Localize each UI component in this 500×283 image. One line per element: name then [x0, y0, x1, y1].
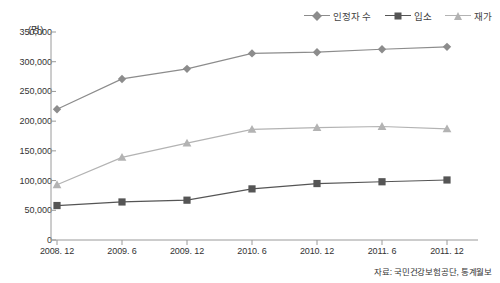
data-point-diamond: [378, 45, 386, 53]
data-point-triangle: [53, 180, 62, 188]
series-2: [53, 122, 452, 188]
plot-svg: [0, 0, 500, 283]
chart-container: 인정자 수 입소 재가 (명) 050,000100,000150,000200…: [0, 0, 500, 283]
series-1: [53, 176, 450, 209]
data-point-square: [248, 185, 255, 192]
x-tick-label: 2010. 6: [237, 246, 266, 256]
data-point-square: [313, 180, 320, 187]
data-point-diamond: [313, 48, 321, 56]
data-point-square: [118, 198, 125, 205]
x-tick-label: 2010. 12: [300, 246, 334, 256]
data-point-square: [183, 197, 190, 204]
plot-area: [0, 0, 500, 283]
data-point-square: [378, 178, 385, 185]
data-point-diamond: [248, 49, 256, 57]
x-tick-label: 2011. 12: [430, 246, 464, 256]
series-0: [53, 43, 451, 114]
data-point-diamond: [53, 105, 61, 113]
x-tick-label: 2009. 12: [170, 246, 204, 256]
source-note: 자료: 국민건강보험공단, 통계월보: [374, 265, 492, 277]
data-point-diamond: [118, 75, 126, 83]
x-tick-label: 2011. 6: [368, 246, 397, 256]
x-tick-label: 2008. 12: [40, 246, 74, 256]
data-point-square: [443, 176, 450, 183]
series-line: [57, 126, 447, 184]
data-point-diamond: [443, 43, 451, 51]
data-point-diamond: [183, 65, 191, 73]
data-point-square: [53, 202, 60, 209]
series-line: [57, 180, 447, 206]
x-tick-label: 2009. 6: [107, 246, 136, 256]
